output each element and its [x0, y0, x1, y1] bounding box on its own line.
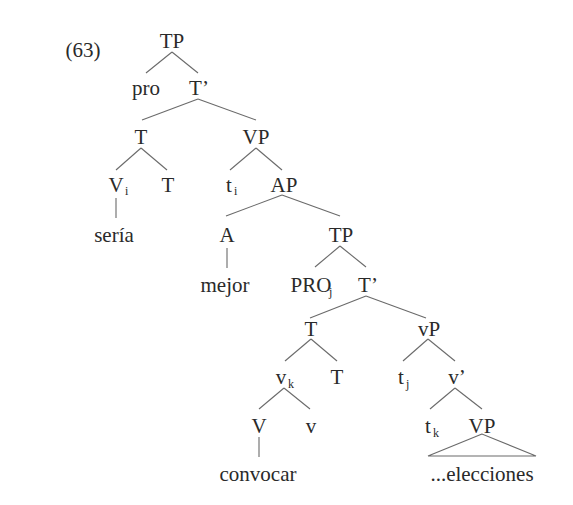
node-t-2: T [162, 173, 175, 197]
leaf-elecciones: ...elecciones [430, 462, 533, 486]
leaf-mejor: mejor [201, 273, 250, 297]
svg-text:k: k [288, 377, 294, 391]
node-v-i: V i [108, 173, 129, 198]
node-t-bar-2: T’ [358, 273, 378, 297]
node-little-vp: vP [418, 317, 440, 341]
node-vp-1: VP [243, 125, 270, 149]
node-v-bar: v’ [448, 365, 466, 389]
node-tp-root: TP [160, 29, 185, 53]
node-pro-j: PRO j [291, 273, 333, 299]
node-t-k: t k [425, 414, 439, 440]
node-pro: pro [132, 76, 160, 100]
svg-text:j: j [328, 285, 332, 299]
leaf-seria: sería [94, 223, 134, 247]
svg-text:t: t [425, 414, 431, 438]
svg-text:PRO: PRO [291, 273, 332, 297]
tree-edges [116, 52, 536, 457]
node-t-i: t i [226, 173, 238, 198]
node-t-4: T [331, 365, 344, 389]
leaf-convocar: convocar [220, 462, 297, 486]
svg-text:t: t [226, 173, 232, 197]
svg-text:V: V [108, 173, 123, 197]
svg-text:v: v [276, 365, 287, 389]
syntax-tree: (63) TP pro T’ T VP V i T t i AP sería A… [0, 0, 573, 505]
node-t-bar-1: T’ [189, 76, 209, 100]
svg-text:i: i [125, 184, 129, 198]
node-little-v: v [306, 414, 317, 438]
node-vp-2: VP [469, 414, 496, 438]
node-t-1: T [135, 125, 148, 149]
node-t-j: t j [398, 365, 409, 391]
svg-text:j: j [405, 377, 409, 391]
node-tp-2: TP [329, 223, 354, 247]
node-a: A [219, 223, 235, 247]
node-v-k: v k [276, 365, 294, 391]
node-t-3: T [305, 317, 318, 341]
example-number: (63) [66, 38, 101, 62]
node-ap: AP [271, 173, 298, 197]
svg-text:t: t [398, 365, 404, 389]
svg-text:i: i [234, 184, 238, 198]
svg-text:k: k [433, 426, 439, 440]
node-big-v: V [251, 414, 266, 438]
